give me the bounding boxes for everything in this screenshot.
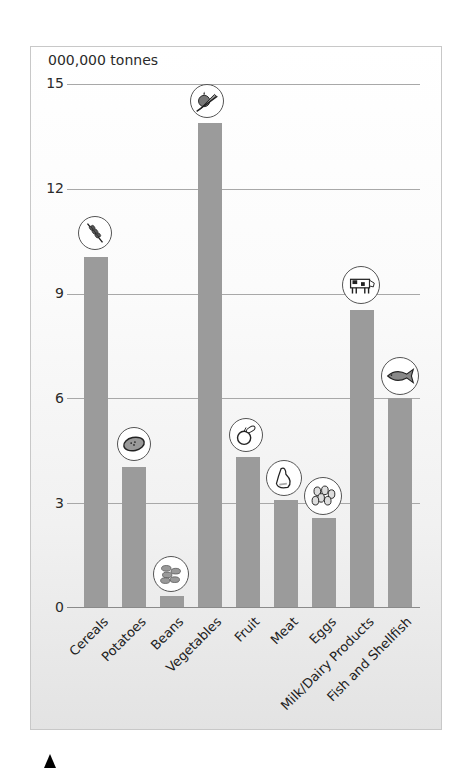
bar-eggs — [312, 518, 336, 607]
y-tick-12: 12 — [34, 180, 64, 196]
potato-icon — [117, 427, 151, 461]
meat-icon — [266, 460, 302, 496]
gridline-12 — [67, 189, 420, 190]
y-tick-3: 3 — [34, 495, 64, 511]
y-tick-0: 0 — [34, 599, 64, 615]
wheat-icon — [78, 216, 112, 250]
gridline-15 — [67, 84, 420, 85]
bar-potatoes — [122, 467, 146, 607]
bar-milk-dairy — [350, 310, 374, 607]
y-tick-6: 6 — [34, 390, 64, 406]
eggs-icon — [304, 477, 342, 515]
cow-icon — [342, 266, 380, 304]
bar-cereals — [84, 257, 108, 607]
bar-meat — [274, 500, 298, 607]
fish-icon — [381, 357, 419, 395]
y-tick-9: 9 — [34, 285, 64, 301]
x-axis-baseline — [67, 607, 420, 608]
y-tick-15: 15 — [34, 75, 64, 91]
fruit-icon — [229, 418, 263, 452]
bar-fruit — [236, 457, 260, 607]
bar-vegetables — [198, 123, 222, 607]
bar-fish-shellfish — [388, 398, 412, 607]
y-axis-unit-label: 000,000 tonnes — [48, 52, 158, 68]
bar-beans — [160, 596, 184, 607]
up-arrow-icon — [44, 754, 56, 768]
vegetables-icon — [190, 84, 224, 118]
beans-icon — [153, 556, 189, 592]
